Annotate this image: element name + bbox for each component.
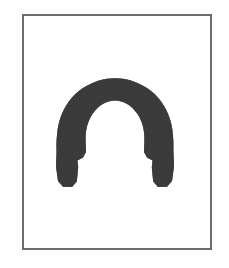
retaining-ring-shape bbox=[56, 78, 174, 187]
figure-root: Retaining ring (snap ring) technical ill… bbox=[0, 0, 229, 268]
retaining-ring-illustration bbox=[0, 0, 229, 268]
